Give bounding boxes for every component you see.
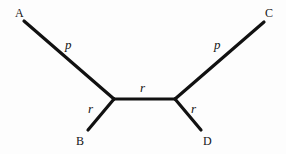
taxon-label-a: A xyxy=(15,7,24,19)
branch-line-a xyxy=(24,21,114,99)
branch-rate-label-internal: r xyxy=(140,81,145,94)
taxon-label-d: D xyxy=(203,135,212,147)
branch-rate-label-d: r xyxy=(191,102,196,115)
branch-rate-label-c: p xyxy=(214,38,221,51)
tree-branches-svg xyxy=(0,0,286,154)
taxon-label-c: C xyxy=(265,7,273,19)
branch-rate-label-a: p xyxy=(65,38,72,51)
branch-line-d xyxy=(175,99,201,130)
branch-line-c xyxy=(175,22,264,99)
tree-diagram-figure: A B C D p r r p r xyxy=(0,0,286,154)
branch-rate-label-b: r xyxy=(88,102,93,115)
taxon-label-b: B xyxy=(76,135,84,147)
